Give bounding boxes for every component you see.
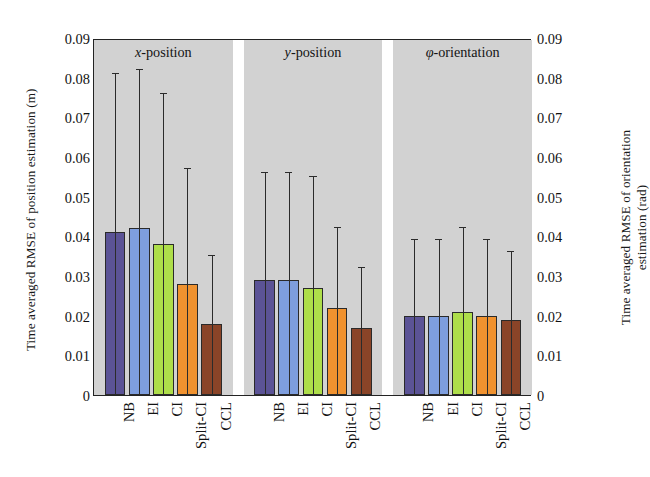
left-axis-tick-4: 0.05 xyxy=(44,191,90,205)
error-bar-phi-orientation-ci xyxy=(463,228,464,395)
category-label-phi-orientation-nb: NB xyxy=(420,402,437,422)
right-axis-tick-7: 0.02 xyxy=(537,310,583,324)
right-axis-tick-1: 0.08 xyxy=(537,72,583,86)
error-cap-x-position-ci xyxy=(160,93,167,94)
error-cap-y-position-ei xyxy=(285,172,292,173)
error-cap-phi-orientation-ei xyxy=(435,239,442,240)
left-axis-tick-3: 0.06 xyxy=(44,151,90,165)
category-label-y-position-nb: NB xyxy=(271,402,288,422)
category-label-y-position-ei: EI xyxy=(295,402,312,416)
group-panel-phi-orientation: φ-orientation xyxy=(393,40,532,395)
error-bar-phi-orientation-ei xyxy=(439,240,440,395)
error-bar-x-position-ei xyxy=(139,70,140,395)
error-bar-phi-orientation-nb xyxy=(414,240,415,395)
error-bar-x-position-ci xyxy=(163,94,164,395)
group-panel-x-position: x-position xyxy=(94,40,233,395)
category-label-x-position-ei: EI xyxy=(145,402,162,416)
group-panel-y-position: y-position xyxy=(244,40,383,395)
error-cap-y-position-split-ci xyxy=(334,227,341,228)
left-axis-tick-7: 0.02 xyxy=(44,310,90,324)
category-label-y-position-ccl: CCL xyxy=(367,402,384,430)
left-axis-title: Time averaged RMSE of position estimatio… xyxy=(23,34,39,406)
plot-area: x-positiony-positionφ-orientation xyxy=(93,39,531,396)
error-cap-x-position-ccl xyxy=(208,255,215,256)
group-title-y-position: y-position xyxy=(244,44,383,61)
error-cap-y-position-nb xyxy=(261,172,268,173)
right-axis-tick-3: 0.06 xyxy=(537,151,583,165)
category-label-phi-orientation-split-ci: Split-CI xyxy=(493,402,510,449)
left-axis-tick-8: 0.01 xyxy=(44,349,90,363)
error-bar-phi-orientation-split-ci xyxy=(487,240,488,395)
error-bar-y-position-split-ci xyxy=(337,228,338,395)
right-axis-tick-5: 0.04 xyxy=(537,230,583,244)
error-bar-y-position-ccl xyxy=(361,268,362,395)
right-axis-tick-0: 0.09 xyxy=(537,32,583,46)
error-cap-y-position-ccl xyxy=(358,267,365,268)
error-bar-y-position-ci xyxy=(313,177,314,395)
right-axis-tick-2: 0.07 xyxy=(537,111,583,125)
left-axis-tick-0: 0.09 xyxy=(44,32,90,46)
left-axis-tick-6: 0.03 xyxy=(44,270,90,284)
right-axis-tick-4: 0.05 xyxy=(537,191,583,205)
error-cap-x-position-split-ci xyxy=(184,168,191,169)
right-axis-tick-9: 0 xyxy=(537,389,583,403)
error-bar-x-position-ccl xyxy=(212,256,213,395)
right-axis-ticks: 0.090.080.070.060.050.040.030.020.010 xyxy=(537,0,583,477)
error-cap-phi-orientation-ccl xyxy=(507,251,514,252)
right-axis-title-line1: Time averaged RMSE of orientation xyxy=(618,42,634,414)
category-label-phi-orientation-ccl: CCL xyxy=(517,402,534,430)
category-label-x-position-ci: CI xyxy=(169,402,186,417)
left-axis-tick-2: 0.07 xyxy=(44,111,90,125)
left-axis-ticks: 0.090.080.070.060.050.040.030.020.010 xyxy=(44,0,90,477)
category-axis-labels: NBEICISplit-CICCLNBEICISplit-CICCLNBEICI… xyxy=(93,396,531,477)
left-axis-tick-1: 0.08 xyxy=(44,72,90,86)
error-cap-phi-orientation-nb xyxy=(411,239,418,240)
category-label-x-position-nb: NB xyxy=(121,402,138,422)
category-label-phi-orientation-ei: EI xyxy=(445,402,462,416)
right-axis-title: Time averaged RMSE of orientation estima… xyxy=(618,42,649,414)
group-title-x-position: x-position xyxy=(94,44,233,61)
error-cap-y-position-ci xyxy=(309,176,316,177)
category-label-y-position-ci: CI xyxy=(319,402,336,417)
category-label-x-position-ccl: CCL xyxy=(218,402,235,430)
error-cap-phi-orientation-split-ci xyxy=(483,239,490,240)
right-axis-title-line2: estimation (rad) xyxy=(634,42,650,414)
error-bar-y-position-ei xyxy=(289,173,290,395)
error-cap-x-position-nb xyxy=(112,73,119,74)
category-label-y-position-split-ci: Split-CI xyxy=(343,402,360,449)
error-bar-phi-orientation-ccl xyxy=(511,252,512,395)
error-bar-y-position-nb xyxy=(265,173,266,395)
plot-inner: x-positiony-positionφ-orientation xyxy=(94,40,530,395)
category-label-phi-orientation-ci: CI xyxy=(469,402,486,417)
category-label-x-position-split-ci: Split-CI xyxy=(193,402,210,449)
error-cap-phi-orientation-ci xyxy=(459,227,466,228)
error-bar-x-position-split-ci xyxy=(187,169,188,395)
error-cap-x-position-ei xyxy=(136,69,143,70)
error-bar-x-position-nb xyxy=(115,74,116,395)
right-axis-tick-6: 0.03 xyxy=(537,270,583,284)
group-title-phi-orientation: φ-orientation xyxy=(393,44,532,61)
right-axis-tick-8: 0.01 xyxy=(537,349,583,363)
left-axis-tick-9: 0 xyxy=(44,389,90,403)
left-axis-tick-5: 0.04 xyxy=(44,230,90,244)
